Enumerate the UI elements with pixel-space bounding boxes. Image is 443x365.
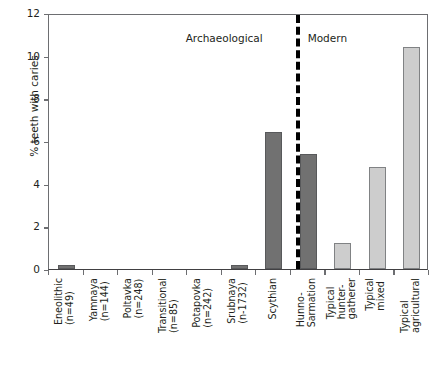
x-label-poltavka: Poltavka(n=248) (126, 278, 142, 364)
x-label-potapovka: Potapovka(n=242) (195, 278, 211, 364)
x-label-text: Typicalmixed (366, 278, 387, 311)
x-label-text: Scythian (267, 278, 278, 320)
x-label-typical: Typicalmixed (368, 278, 384, 364)
x-label-line: Yamnaya (89, 278, 100, 321)
group-label-archaeological: Archaeological (186, 32, 263, 44)
y-tick-label: 12 (27, 7, 40, 20)
x-tick-mark (393, 270, 394, 275)
bar-typical (369, 167, 386, 269)
x-label-text: Poltavka(n=248) (124, 278, 145, 319)
group-divider-line (296, 15, 300, 269)
x-label-line: (n=85) (169, 278, 180, 333)
y-tick-label: 2 (33, 220, 40, 233)
x-label-text: Hunno-Sarmation (296, 278, 317, 327)
x-label-yamnaya: Yamnaya(n=144) (92, 278, 108, 364)
bar-typical (403, 47, 420, 269)
x-label-line: Typical (326, 278, 337, 319)
y-tick-label: 4 (33, 178, 40, 191)
x-label-line: (n=248) (134, 278, 145, 319)
x-label-line: mixed (376, 278, 387, 311)
x-label-typical: Typicalhunter-gatherer (334, 278, 350, 364)
y-tick-label: 10 (27, 50, 40, 63)
x-label-line: gatherer (347, 278, 358, 319)
x-label-line: (n=49) (65, 278, 76, 325)
bar-hunno (300, 154, 317, 269)
bar-typical (334, 243, 351, 269)
x-label-transitional: Transitional(n=85) (161, 278, 177, 364)
x-label-text: Potapovka(n=242) (193, 278, 214, 328)
caries-bar-chart: % teeth with caries 121086420 Archaeolog… (0, 0, 443, 365)
x-axis-category-labels: Eneolithic(n=49)Yamnaya(n=144)Poltavka(n… (48, 278, 428, 365)
plot-area: Archaeological Modern (48, 14, 428, 270)
x-label-text: Srubnaya(n-1732) (227, 278, 248, 324)
x-label-text: Transitional(n=85) (158, 278, 179, 333)
x-label-line: Transitional (158, 278, 169, 333)
x-label-text: Eneolithic(n=49) (55, 278, 76, 325)
x-tick-mark (221, 270, 222, 275)
bar-eneolithic (58, 265, 75, 269)
x-label-line: (n=242) (203, 278, 214, 328)
x-label-typical: Typicalagricultural (403, 278, 419, 364)
bar-scythian (265, 132, 282, 269)
x-tick-mark (290, 270, 291, 275)
x-label-scythian: Scythian (265, 278, 281, 364)
x-label-line: Scythian (267, 278, 278, 320)
x-tick-mark (255, 270, 256, 275)
x-tick-mark (359, 270, 360, 275)
x-label-line: agricultural (411, 278, 422, 333)
y-tick-label: 8 (33, 92, 40, 105)
x-label-text: Typicalhunter-gatherer (326, 278, 358, 319)
x-tick-mark (428, 270, 429, 275)
x-label-text: Yamnaya(n=144) (89, 278, 110, 321)
x-label-line: (n-1732) (238, 278, 249, 324)
y-axis-title: % teeth with caries (28, 16, 40, 196)
x-tick-mark (152, 270, 153, 275)
x-label-eneolithic: Eneolithic(n=49) (57, 278, 73, 364)
y-tick-label: 0 (33, 263, 40, 276)
x-tick-mark (117, 270, 118, 275)
x-label-line: (n=144) (100, 278, 111, 321)
x-label-text: Typicalagricultural (400, 278, 421, 333)
group-label-modern: Modern (308, 32, 347, 44)
bar-series (49, 15, 427, 269)
x-label-hunno: Hunno-Sarmation (299, 278, 315, 364)
x-label-line: Sarmation (307, 278, 318, 327)
x-label-line: Typical (400, 278, 411, 333)
x-tick-mark (48, 270, 49, 275)
x-label-srubnaya: Srubnaya(n-1732) (230, 278, 246, 364)
bar-srubnaya (231, 265, 248, 269)
x-tick-mark (83, 270, 84, 275)
x-label-line: Srubnaya (227, 278, 238, 324)
y-tick-label: 6 (33, 135, 40, 148)
x-tick-mark (324, 270, 325, 275)
x-tick-mark (186, 270, 187, 275)
